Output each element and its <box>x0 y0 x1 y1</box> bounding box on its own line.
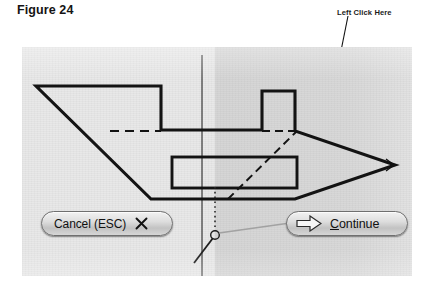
profile-outline <box>36 86 395 199</box>
snap-pick-line <box>194 238 213 263</box>
close-x-icon <box>135 217 148 230</box>
snap-tracking-line <box>219 223 290 233</box>
inner-rectangle-feature <box>172 157 297 188</box>
cancel-button[interactable]: Cancel (ESC) <box>41 211 173 236</box>
figure-caption: Figure 24 <box>17 3 73 17</box>
cancel-button-label: Cancel (ESC) <box>54 217 126 231</box>
continue-button-label: Continue <box>330 217 379 231</box>
continue-button[interactable]: Continue <box>286 211 408 236</box>
continue-label-rest: ontinue <box>339 217 379 231</box>
annotation-label: Left Click Here <box>337 8 392 17</box>
cad-drawing-canvas[interactable] <box>22 47 412 276</box>
continue-accel-key: C <box>330 217 339 231</box>
figure-screenshot: Figure 24 Left Click Here <box>0 0 431 284</box>
drawing-geometry <box>22 47 412 276</box>
arrow-right-icon <box>296 215 322 232</box>
